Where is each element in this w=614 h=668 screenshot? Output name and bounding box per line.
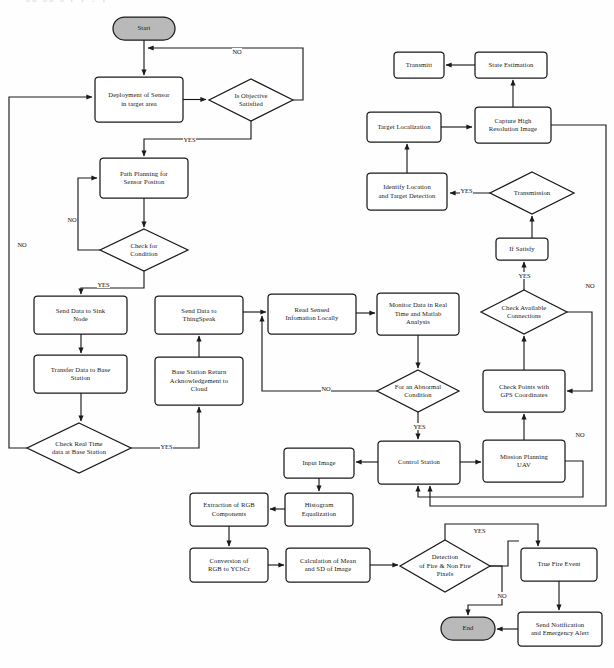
node-shape-send_notification <box>518 612 602 646</box>
node-shape-if_satisfy <box>496 238 548 260</box>
edge-label-yes-check-condition: YES <box>97 281 110 288</box>
node-shape-base_ack <box>155 357 243 405</box>
node-shape-start <box>113 17 175 40</box>
node-shape-capture_image <box>475 107 551 143</box>
node-shape-target_localization <box>367 112 441 142</box>
node-shape-check_realtime <box>27 423 131 473</box>
node-shape-transmitt <box>394 52 444 78</box>
node-shape-state_estimation <box>475 52 547 78</box>
edge <box>490 541 519 566</box>
node-shape-histogram <box>285 493 353 526</box>
edge <box>81 271 144 294</box>
edge-label-no-left-outer: NO <box>17 241 27 248</box>
node-shape-read_sensed <box>268 294 356 334</box>
node-shape-mission_planning <box>483 440 565 482</box>
edge-label-yes-abnormal: YES <box>413 423 426 430</box>
node-shape-control_station <box>378 441 460 484</box>
edge-label-yes-ifsatisfy: YES <box>518 272 531 279</box>
edge <box>78 178 100 250</box>
node-shape-check_condition <box>100 229 188 271</box>
edge <box>131 407 199 448</box>
edge <box>144 121 251 156</box>
flowchart-canvas: gg gg g p p y p StartDeployment of Senso… <box>0 0 614 668</box>
node-shape-send_thingspeak <box>155 296 243 334</box>
node-shape-is_objective <box>209 79 293 121</box>
node-shape-check_available <box>481 290 567 334</box>
edge-label-no-right-outer: NO <box>585 282 595 289</box>
node-shape-calc_mean <box>286 548 370 582</box>
node-shape-extraction_rgb <box>190 493 268 526</box>
node-shape-monitor_data <box>377 293 459 335</box>
edge-label-no-check-condition: NO <box>67 216 77 223</box>
node-shape-conversion_rgb <box>190 548 268 582</box>
node-shape-input_image <box>284 448 354 478</box>
edge-label-yes-transmission: YES <box>460 187 473 194</box>
node-shape-check_points_gps <box>483 370 565 412</box>
node-shape-end <box>441 617 495 640</box>
node-shape-send_sink <box>34 296 127 334</box>
edge-label-yes-detection-fire: YES <box>473 527 486 534</box>
node-shape-abnormal <box>377 370 459 412</box>
edge-label-no-right-inner: NO <box>575 431 585 438</box>
node-shape-transmission <box>490 172 574 214</box>
node-shape-identify_location <box>367 173 447 210</box>
node-shape-detection_fire <box>400 540 490 592</box>
edge-label-no-detection-fire: NO <box>497 592 507 599</box>
flowchart-svg <box>0 0 614 668</box>
node-shape-path_planning <box>100 158 188 198</box>
edge <box>445 524 538 546</box>
node-shape-true_fire <box>521 548 597 581</box>
node-shapes <box>27 17 602 646</box>
edge <box>567 312 592 391</box>
node-shape-deployment <box>95 77 183 122</box>
edge-label-yes-objective: YES <box>183 136 196 143</box>
node-shape-transfer_base <box>34 355 127 393</box>
edge-label-no-objective-top: NO <box>232 48 242 55</box>
edge <box>9 97 92 448</box>
edge-label-no-abnormal: NO <box>321 385 331 392</box>
edge-label-yes-realtime: YES <box>160 443 173 450</box>
